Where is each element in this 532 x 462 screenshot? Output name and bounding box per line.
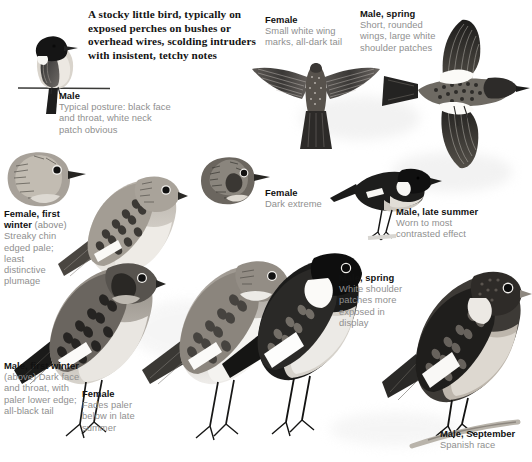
caption-male-late-summer: Male, late summer Worn to most contraste…: [396, 206, 488, 240]
caption-male-september: Male, September Spanish race: [440, 428, 532, 450]
caption-heading: Male, late summer: [396, 206, 478, 217]
caption-heading: Male, first winter: [4, 360, 79, 371]
caption-male-perched: Male Typical posture: black face and thr…: [59, 90, 179, 135]
caption-heading: Male: [59, 90, 80, 101]
male-spring-perched-illustration: [222, 228, 362, 443]
female-dark-extreme-head-illustration: [196, 152, 272, 214]
bird-field-guide-plate: A stocky little bird, typically on expos…: [0, 0, 532, 462]
caption-heading: Female: [265, 187, 298, 198]
caption-body: Short, rounded wings, large white should…: [360, 19, 440, 53]
caption-body: Spanish race: [440, 439, 532, 450]
caption-heading: Female: [265, 14, 298, 25]
caption-heading: Male, September: [440, 428, 515, 439]
caption-heading: Female, first: [4, 208, 60, 219]
caption-female-flight: Female Small white wing marks, all-dark …: [265, 14, 343, 48]
male-september-spanish-race-illustration: [382, 250, 532, 450]
caption-body: Fades paler below in late summer: [82, 399, 162, 433]
caption-body: Small white wing marks, all-dark tail: [265, 25, 343, 47]
caption-body: Typical posture: black face and throat, …: [59, 101, 179, 135]
caption-female-fading: Female Fades paler below in late summer: [82, 388, 162, 433]
caption-body: Worn to most contrasted effect: [396, 217, 488, 239]
plate-intro-text: A stocky little bird, typically on expos…: [88, 8, 273, 62]
caption-male-spring-flight: Male, spring Short, rounded wings, large…: [360, 8, 440, 53]
caption-heading: Male, spring: [360, 8, 415, 19]
caption-heading-line2: winter: [4, 219, 32, 230]
caption-heading: Female: [82, 388, 115, 399]
female-spread-wings-flight-illustration: [248, 55, 384, 155]
